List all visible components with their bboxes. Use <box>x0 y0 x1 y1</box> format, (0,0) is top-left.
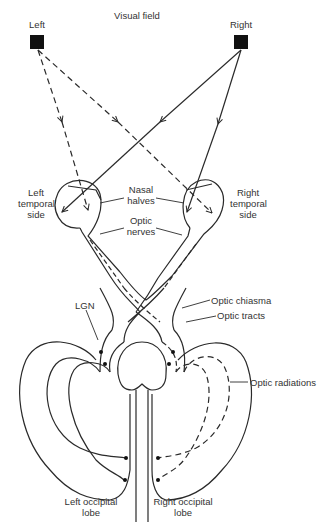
visual-pathway-diagram <box>0 0 336 530</box>
leader-lines <box>86 198 248 382</box>
diagram-title: Visual field <box>112 10 162 21</box>
right-visual-object <box>234 35 248 49</box>
optic-radiations-label: Optic radiations <box>250 377 316 388</box>
visual-field-left-label: Left <box>26 19 48 30</box>
left-occipital-lobe-label: Left occipital lobe <box>56 496 126 518</box>
right-hemisphere-outline <box>152 343 251 500</box>
nasal-halves-label: Nasal halves <box>124 184 158 206</box>
right-temporal-side-label: Right temporal side <box>230 187 266 220</box>
midbrain <box>118 342 167 390</box>
left-visual-object <box>30 35 44 49</box>
right-radiation-outer <box>158 357 229 458</box>
visual-field-right-label: Right <box>228 19 254 30</box>
optic-chiasma-label: Optic chiasma <box>211 295 271 306</box>
left-radiation-inner <box>69 363 124 480</box>
left-temporal-side-label: Left temporal side <box>18 187 54 220</box>
optic-chiasma <box>100 272 186 342</box>
optic-tracts-label: Optic tracts <box>217 310 265 321</box>
midline <box>136 390 148 522</box>
right-occipital-lobe-label: Right occipital lobe <box>148 496 218 518</box>
right-eye <box>158 180 223 288</box>
lgn-right-2 <box>167 362 171 366</box>
optic-nerves-label: Optic nerves <box>124 215 158 237</box>
lgn-right-1 <box>171 350 175 354</box>
right-radiation-inner <box>158 364 209 480</box>
left-eye <box>55 180 124 288</box>
lgn-left-1 <box>99 350 103 354</box>
left-radiation-outer <box>47 358 126 458</box>
lgn-label: LGN <box>75 300 95 311</box>
